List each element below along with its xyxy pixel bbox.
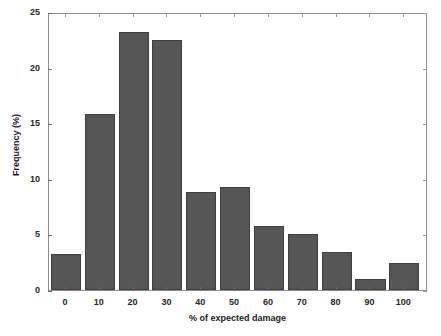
y-tick-mark — [48, 180, 52, 181]
x-tick-label: 100 — [383, 297, 423, 307]
x-tick-mark — [65, 287, 66, 291]
bar — [288, 234, 318, 290]
bar — [152, 40, 182, 290]
x-tick-mark — [302, 287, 303, 291]
x-tick-mark — [268, 287, 269, 291]
bar — [389, 263, 419, 290]
x-tick-mark-top — [99, 13, 100, 17]
x-tick-mark — [133, 287, 134, 291]
y-tick-label: 5 — [0, 230, 40, 239]
bar — [355, 279, 385, 290]
y-tick-label: 25 — [0, 8, 40, 17]
y-tick-mark-right — [423, 124, 427, 125]
y-tick-mark — [48, 13, 52, 14]
y-tick-mark-right — [423, 69, 427, 70]
x-tick-mark — [336, 287, 337, 291]
x-tick-mark-top — [133, 13, 134, 17]
x-tick-mark-top — [336, 13, 337, 17]
x-tick-mark-top — [302, 13, 303, 17]
x-tick-mark-top — [369, 13, 370, 17]
bar — [220, 187, 250, 290]
bar — [119, 32, 149, 290]
histogram-figure: 0510152025 0102030405060708090100 % of e… — [0, 0, 441, 336]
bar — [254, 226, 284, 290]
y-tick-label: 20 — [0, 64, 40, 73]
x-tick-mark — [99, 287, 100, 291]
x-tick-mark-top — [403, 13, 404, 17]
y-tick-mark-right — [423, 13, 427, 14]
x-tick-mark — [369, 287, 370, 291]
x-tick-mark — [403, 287, 404, 291]
y-tick-label: 0 — [0, 286, 40, 295]
x-tick-mark — [200, 287, 201, 291]
plot-area — [48, 13, 427, 291]
x-tick-mark — [234, 287, 235, 291]
x-axis-title: % of expected damage — [48, 313, 427, 323]
bars-layer — [49, 14, 426, 290]
bar — [51, 254, 81, 290]
x-tick-mark — [166, 287, 167, 291]
bar — [186, 192, 216, 290]
y-tick-mark-right — [423, 180, 427, 181]
x-tick-mark-top — [200, 13, 201, 17]
y-tick-mark — [48, 291, 52, 292]
y-tick-mark-right — [423, 291, 427, 292]
x-tick-mark-top — [234, 13, 235, 17]
y-tick-mark — [48, 69, 52, 70]
x-tick-mark-top — [268, 13, 269, 17]
x-tick-mark-top — [65, 13, 66, 17]
y-axis-title: Frequency (%) — [11, 85, 21, 205]
bar — [322, 252, 352, 290]
y-tick-mark — [48, 124, 52, 125]
y-tick-mark — [48, 235, 52, 236]
y-tick-mark-right — [423, 235, 427, 236]
bar — [85, 114, 115, 290]
x-tick-mark-top — [166, 13, 167, 17]
